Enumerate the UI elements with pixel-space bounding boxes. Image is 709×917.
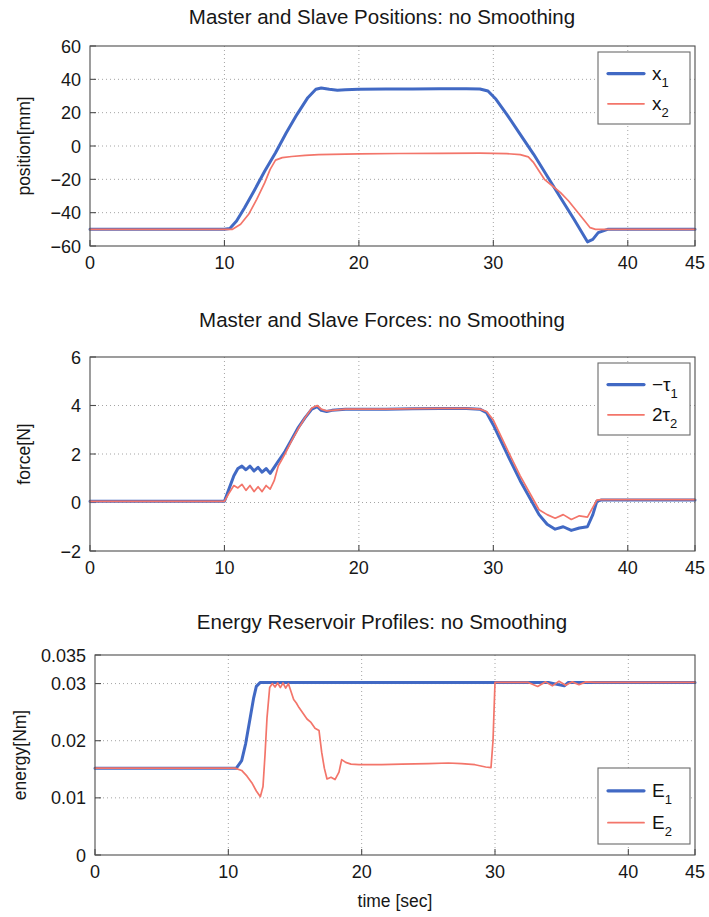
- x-tick-label: 20: [349, 253, 369, 273]
- x-tick-label: 20: [352, 862, 372, 882]
- y-tick-label: 0.035: [41, 646, 86, 666]
- x-tick-label: 45: [685, 862, 705, 882]
- x-tick-label: 10: [218, 862, 238, 882]
- series-line-x2: [90, 153, 695, 229]
- y-tick-label: 0: [76, 846, 86, 866]
- y-tick-label: −40: [50, 203, 81, 223]
- y-tick-label: 2: [71, 445, 81, 465]
- chart-panel-forces: Master and Slave Forces: no Smoothing 64…: [0, 305, 709, 605]
- chart-panel-energy: Energy Reservoir Profiles: no Smoothing …: [0, 605, 709, 917]
- x-tick-label: 40: [618, 558, 638, 578]
- x-axis-label: time [sec]: [358, 891, 433, 911]
- y-tick-label: 0.01: [51, 788, 86, 808]
- forces-plot-area: 6420−201020304045force[N]−τ12τ2: [14, 348, 705, 579]
- y-axis-label: energy[Nm]: [10, 710, 30, 800]
- x-tick-label: 45: [685, 253, 705, 273]
- x-tick-label: 30: [483, 558, 503, 578]
- x-tick-label: 30: [483, 253, 503, 273]
- energy-plot-area: 0.0350.030.020.01001020304045energy[Nm]t…: [10, 646, 705, 912]
- y-tick-label: −60: [50, 237, 81, 257]
- chart-panel-positions: Master and Slave Positions: no Smoothing…: [0, 0, 709, 305]
- legend-box: [598, 52, 690, 124]
- y-axis-label: position[mm]: [14, 96, 34, 195]
- y-tick-label: −2: [60, 542, 81, 562]
- y-tick-label: 0.02: [51, 731, 86, 751]
- x-tick-label: 20: [349, 558, 369, 578]
- y-tick-label: 0.03: [51, 674, 86, 694]
- y-tick-label: 6: [71, 348, 81, 368]
- x-tick-label: 0: [85, 253, 95, 273]
- energy-svg: Energy Reservoir Profiles: no Smoothing …: [0, 605, 709, 917]
- positions-plot-area: 6040200−20−40−6001020304045position[mm]x…: [14, 37, 705, 274]
- x-tick-label: 0: [85, 558, 95, 578]
- x-tick-label: 45: [685, 558, 705, 578]
- x-tick-label: 40: [618, 253, 638, 273]
- figure-container: Master and Slave Positions: no Smoothing…: [0, 0, 709, 917]
- y-tick-label: 60: [61, 37, 81, 57]
- positions-svg: Master and Slave Positions: no Smoothing…: [0, 0, 709, 305]
- forces-title: Master and Slave Forces: no Smoothing: [199, 308, 565, 331]
- legend-box: [598, 768, 690, 844]
- y-tick-label: −20: [50, 170, 81, 190]
- x-tick-label: 10: [214, 558, 234, 578]
- positions-title: Master and Slave Positions: no Smoothing: [189, 5, 575, 28]
- series-line-E1: [95, 682, 695, 768]
- y-axis-label: force[N]: [14, 423, 34, 484]
- y-tick-label: 4: [71, 396, 81, 416]
- x-tick-label: 30: [485, 862, 505, 882]
- y-tick-label: 0: [71, 137, 81, 157]
- x-tick-label: 0: [90, 862, 100, 882]
- y-tick-label: 40: [61, 70, 81, 90]
- forces-svg: Master and Slave Forces: no Smoothing 64…: [0, 305, 709, 605]
- energy-title: Energy Reservoir Profiles: no Smoothing: [197, 610, 567, 633]
- y-tick-label: 20: [61, 103, 81, 123]
- x-tick-label: 40: [618, 862, 638, 882]
- y-tick-label: 0: [71, 493, 81, 513]
- x-tick-label: 10: [214, 253, 234, 273]
